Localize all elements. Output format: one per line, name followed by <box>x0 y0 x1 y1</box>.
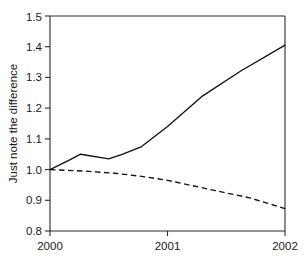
plot-frame <box>50 16 285 231</box>
x-tick-label: 2001 <box>155 240 181 252</box>
y-tick-label: 0.8 <box>26 225 42 237</box>
x-axis-tick-labels: 2000 2001 2002 <box>37 240 298 252</box>
y-axis-tick-labels: 0.8 0.9 1.0 1.1 1.2 1.3 1.4 1.5 <box>26 11 43 238</box>
chart-container: 0.8 0.9 1.0 1.1 1.2 1.3 1.4 1.5 2000 200… <box>0 0 305 264</box>
series-dashed-line <box>50 170 285 209</box>
y-tick-label: 1.4 <box>26 41 43 53</box>
axis-lines <box>50 16 285 231</box>
y-tick-label: 1.1 <box>26 133 42 145</box>
y-tick-label: 1.2 <box>26 102 42 114</box>
data-series-group <box>50 45 285 208</box>
y-tick-label: 1.0 <box>26 164 42 176</box>
x-tick-label: 2002 <box>272 240 298 252</box>
x-tick-label: 2000 <box>37 240 63 252</box>
y-axis-title: Just note the difference <box>7 64 19 183</box>
x-axis-ticks <box>50 231 285 236</box>
y-tick-label: 1.5 <box>26 11 42 23</box>
y-axis-ticks <box>45 16 50 231</box>
line-chart: 0.8 0.9 1.0 1.1 1.2 1.3 1.4 1.5 2000 200… <box>0 0 305 264</box>
y-tick-label: 1.3 <box>26 71 42 83</box>
series-solid-line <box>50 45 285 169</box>
y-tick-label: 0.9 <box>26 194 42 206</box>
